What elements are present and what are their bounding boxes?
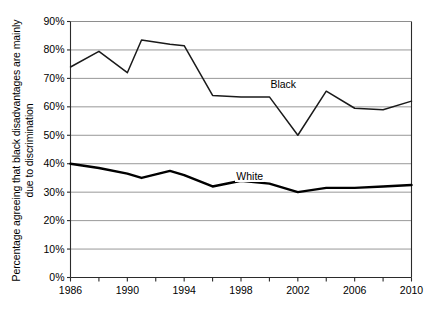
x-axis-tick-label: 1998 — [221, 285, 261, 296]
x-axis-tick-label: 2006 — [335, 285, 375, 296]
axis-lines — [71, 22, 412, 278]
y-axis-tick-label: 0% — [29, 272, 65, 283]
y-axis-tick-label: 30% — [29, 187, 65, 198]
y-axis-tick-label: 50% — [29, 130, 65, 141]
series-label-black: Black — [269, 79, 297, 90]
y-axis-tick-label: 40% — [29, 158, 65, 169]
x-axis-tick-label: 1994 — [164, 285, 204, 296]
x-axis-tick-label: 1990 — [107, 285, 147, 296]
y-axis-tick-label: 80% — [29, 44, 65, 55]
y-axis-tick-label: 20% — [29, 215, 65, 226]
plot-area — [0, 0, 435, 316]
x-axis-tick-label: 1986 — [51, 285, 91, 296]
y-axis-tick-label: 10% — [29, 244, 65, 255]
chart-container: Percentage agreeing that black disadvant… — [0, 0, 435, 316]
y-axis-tick-label: 70% — [29, 73, 65, 84]
series-line-black — [71, 40, 412, 135]
x-axis-ticks — [71, 278, 412, 282]
gridlines — [71, 22, 412, 250]
y-axis-tick-label: 60% — [29, 101, 65, 112]
x-axis-tick-label: 2002 — [278, 285, 318, 296]
y-axis-tick-label: 90% — [29, 16, 65, 27]
series-label-white: White — [235, 171, 264, 182]
x-axis-tick-label: 2010 — [392, 285, 432, 296]
